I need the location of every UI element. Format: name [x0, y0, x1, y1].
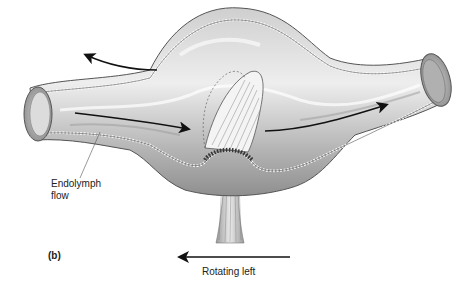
ampulla-diagram [0, 0, 467, 287]
panel-label: (b) [48, 250, 61, 261]
endolymph-label-line1: Endolymph [51, 178, 101, 190]
upper-left-arrow [86, 55, 157, 70]
endolymph-label: Endolymph flow [51, 178, 101, 202]
left-canal-opening [24, 87, 52, 141]
endolymph-label-line2: flow [51, 190, 101, 202]
rotation-label: Rotating left [202, 266, 255, 278]
